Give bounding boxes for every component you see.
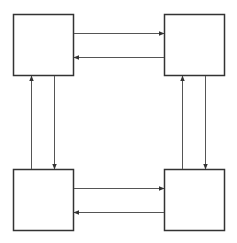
node-top-right [165,15,225,76]
node-bottom-left [14,170,74,231]
node-bottom-right [165,170,225,231]
diagram-canvas [0,0,237,243]
node-top-left [14,15,74,76]
